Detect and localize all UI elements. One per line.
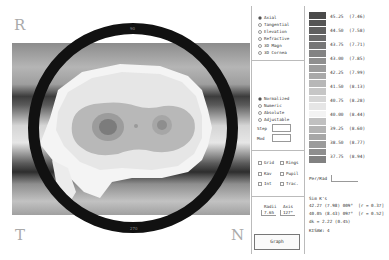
scale-tick: 38.50 (8.77) (330, 140, 365, 145)
scale-swatch (309, 73, 326, 81)
map-type-group: Axial Tangential Elevation Refractive 3D… (252, 6, 304, 61)
kisa-index: KISAW: 4 (309, 228, 330, 233)
radio-label: Absolute (264, 110, 284, 115)
radio-label: Axial (264, 15, 277, 20)
orientation-label-temporal: T (15, 226, 25, 244)
scale-swatch (309, 118, 326, 126)
radio-label: Adjustable (264, 117, 289, 122)
checkbox-int[interactable]: Int (258, 181, 272, 186)
step-label: Step (257, 126, 267, 131)
radio-icon[interactable] (258, 30, 262, 34)
radio-icon[interactable] (258, 111, 262, 115)
scale-swatch (309, 50, 326, 58)
radio-3d-magn[interactable]: 3D Magn (258, 43, 282, 48)
sim-k-title: Sim K's (309, 196, 327, 201)
radio-icon[interactable] (258, 16, 262, 20)
scale-swatch (309, 27, 326, 35)
radio-label: Normalized (264, 96, 289, 101)
radio-3d-cornea[interactable]: 3D Cornea (258, 50, 287, 55)
scale-swatch (309, 80, 326, 88)
radio-adjustable[interactable]: Adjustable (258, 117, 289, 122)
degree-ring (28, 23, 238, 233)
mod-label: Mod (257, 136, 265, 141)
checkbox-label: Int (264, 181, 272, 186)
radio-normalized[interactable]: Normalized (258, 96, 289, 101)
scale-swatch (309, 96, 326, 104)
scale-tick: 43.75 (7.71) (330, 42, 365, 47)
radio-label: Elevation (264, 29, 287, 34)
topography-view[interactable]: R 90 270 T N (0, 0, 252, 260)
checkbox-icon[interactable] (280, 182, 284, 186)
radio-elevation[interactable]: Elevation (258, 29, 287, 34)
scale-swatch (309, 58, 326, 66)
checkbox-label: Rings (286, 160, 299, 165)
radio-label: 3D Cornea (264, 50, 287, 55)
radio-icon[interactable] (258, 118, 262, 122)
scale-swatch (309, 126, 326, 134)
scale-type-group: Normalized Numeric Absolute Adjustable S… (252, 60, 304, 151)
scale-swatch (309, 12, 326, 20)
checkbox-trac[interactable]: Trac. (280, 181, 299, 186)
mod-input[interactable] (272, 134, 291, 142)
radio-tangential[interactable]: Tangential (258, 22, 289, 27)
sim-k1: 42.27 (7.98) 009° [r = 0.37] (309, 203, 384, 208)
radio-icon[interactable] (258, 23, 262, 27)
checkbox-grid[interactable]: Grid (258, 160, 274, 165)
radio-label: Refractive (264, 36, 289, 41)
radio-icon[interactable] (258, 97, 262, 101)
radii-label: Radii (264, 204, 277, 209)
axis-label: Axis (283, 204, 293, 209)
radio-numeric[interactable]: Numeric (258, 103, 282, 108)
radio-icon[interactable] (258, 104, 262, 108)
axis-value: 127° (280, 210, 295, 216)
sim-dk: dk = 2.22 (0.45) (309, 219, 350, 224)
checkbox-icon[interactable] (280, 161, 284, 165)
checkbox-kav[interactable]: Kav (258, 171, 272, 176)
scale-tick: 43.00 (7.85) (330, 56, 365, 61)
color-scale-bar (309, 12, 326, 164)
radio-icon[interactable] (258, 51, 262, 55)
radio-absolute[interactable]: Absolute (258, 110, 284, 115)
radii-value: 7.65 (261, 210, 276, 216)
radio-label: 3D Magn (264, 43, 282, 48)
checkbox-pupil[interactable]: Pupil (280, 171, 299, 176)
scale-tick: 39.25 (8.60) (330, 126, 365, 131)
scale-swatch (309, 65, 326, 73)
scale-tick: 40.00 (8.44) (330, 112, 365, 117)
checkbox-rings[interactable]: Rings (280, 160, 299, 165)
overlay-group: Grid Rings Kav Pupil Int Trac. (252, 150, 304, 197)
checkbox-icon[interactable] (258, 161, 262, 165)
radio-label: Numeric (264, 103, 282, 108)
scale-swatch (309, 141, 326, 149)
checkbox-label: Trac. (286, 181, 299, 186)
checkbox-label: Pupil (286, 171, 299, 176)
per-rad-input[interactable] (331, 175, 358, 182)
radio-icon[interactable] (258, 44, 262, 48)
scale-swatch (309, 88, 326, 96)
scale-swatch (309, 35, 326, 43)
ring-label-270: 270 (130, 226, 138, 231)
radio-label: Tangential (264, 22, 289, 27)
checkbox-label: Grid (264, 160, 274, 165)
radio-icon[interactable] (258, 37, 262, 41)
checkbox-icon[interactable] (258, 172, 262, 176)
scale-swatch (309, 134, 326, 142)
ring-label-90: 90 (130, 26, 135, 31)
scale-tick: 40.75 (8.28) (330, 98, 365, 103)
scale-tick: 37.75 (8.94) (330, 154, 365, 159)
scale-tick: 42.25 (7.99) (330, 70, 365, 75)
checkbox-icon[interactable] (280, 172, 284, 176)
scale-swatch (309, 20, 326, 28)
radio-axial[interactable]: Axial (258, 15, 277, 20)
step-input[interactable] (272, 124, 291, 132)
checkbox-icon[interactable] (258, 182, 262, 186)
scale-swatch (309, 111, 326, 119)
graph-button[interactable]: Graph (254, 234, 300, 250)
scale-tick: 44.50 (7.58) (330, 28, 365, 33)
radio-refractive[interactable]: Refractive (258, 36, 289, 41)
scale-swatch (309, 103, 326, 111)
scale-tick: 45.25 (7.46) (330, 14, 365, 19)
scale-swatch (309, 42, 326, 50)
scale-swatch (309, 149, 326, 157)
scale-tick: 41.50 (8.13) (330, 84, 365, 89)
